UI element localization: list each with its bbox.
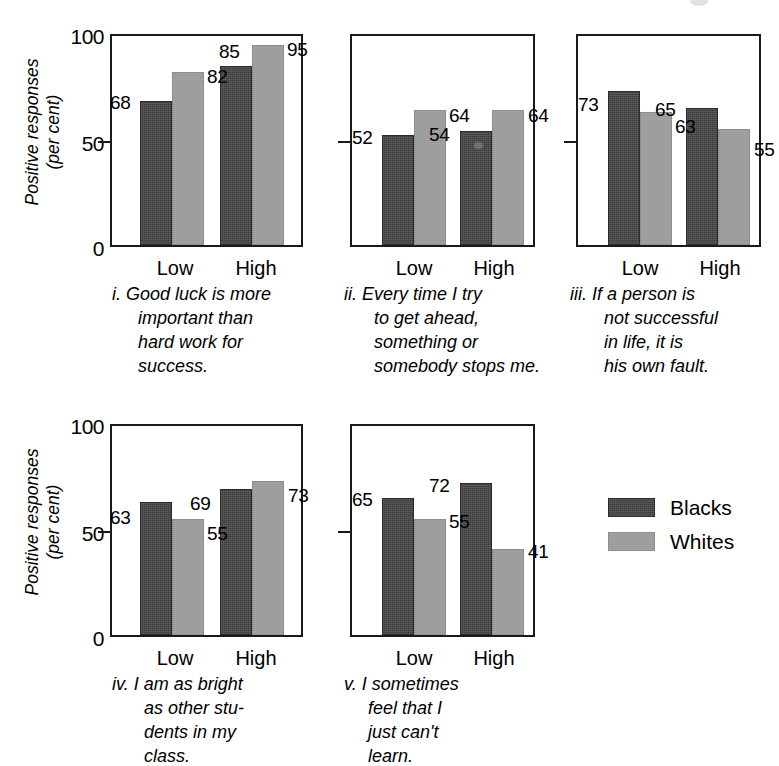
- panel-caption-iii: iii. If a person is not successful in li…: [570, 283, 779, 379]
- legend-swatch-blacks-icon: [608, 498, 655, 517]
- legend-label-blacks: Blacks: [670, 496, 732, 520]
- bar-i-high-blacks: [220, 66, 252, 245]
- bar-iii-low-whites: [640, 112, 672, 245]
- y-axis-title-line2: (per cent): [43, 95, 63, 170]
- bar-i-low-whites: [172, 72, 204, 245]
- y-tick-0-iv: 0: [52, 628, 104, 649]
- bar-value-ii-high-blacks: 54: [429, 125, 449, 144]
- y-axis-title-line1: Positive responses: [22, 59, 42, 206]
- y-tick-50-iv: 50: [52, 523, 104, 544]
- bar-value-iii-low-whites: 63: [675, 117, 695, 136]
- legend-item-whites: Whites: [608, 530, 768, 554]
- bar-value-i-high-blacks: 85: [219, 42, 239, 61]
- bar-value-v-high-whites: 41: [528, 542, 548, 561]
- bar-iv-low-whites: [172, 519, 204, 635]
- bar-value-v-low-whites: 55: [449, 512, 469, 531]
- bar-v-high-blacks: [460, 483, 492, 635]
- legend: Blacks Whites: [608, 496, 768, 558]
- legend-label-whites: Whites: [670, 530, 734, 554]
- bar-value-iv-low-whites: 55: [207, 524, 227, 543]
- bar-value-i-high-whites: 95: [287, 40, 307, 59]
- bar-value-iv-high-whites: 73: [288, 486, 308, 505]
- x-label-v-low: Low: [384, 648, 444, 668]
- bar-v-high-whites: [492, 549, 524, 636]
- bar-v-low-whites: [414, 519, 446, 635]
- bar-value-ii-low-whites: 64: [449, 106, 469, 125]
- bar-ii-low-blacks: [382, 135, 414, 245]
- bar-value-ii-low-blacks: 52: [352, 128, 372, 147]
- y-tick-0-i: 0: [52, 238, 104, 259]
- x-label-v-high: High: [464, 648, 524, 668]
- panel-caption-v: v. I sometimes feel that I just can't le…: [344, 673, 583, 766]
- x-label-i-low: Low: [145, 258, 205, 278]
- panel-caption-i: i. Good luck is more important than hard…: [112, 283, 353, 379]
- legend-swatch-whites-icon: [608, 532, 655, 551]
- bar-iv-high-blacks: [220, 489, 252, 635]
- panel-i: Positive responses (per cent) 100 50 0 6…: [0, 0, 330, 390]
- bar-v-low-blacks: [382, 498, 414, 635]
- bar-i-high-whites: [252, 45, 284, 246]
- y-axis-title-line2-iv: (per cent): [43, 485, 63, 560]
- panel-caption-ii: ii. Every time I try to get ahead, somet…: [344, 283, 589, 379]
- bar-value-iv-low-blacks: 63: [110, 508, 130, 527]
- bar-iv-high-whites: [252, 481, 284, 635]
- scan-artifact-panel-ii: [474, 142, 483, 149]
- bar-value-v-low-blacks: 65: [352, 490, 372, 509]
- panel-v: 65 55 72 41 Low High v. I sometimes feel…: [330, 390, 570, 750]
- bar-value-iii-high-blacks: 65: [655, 100, 675, 119]
- panel-caption-iv: iv. I am as bright as other stu- dents i…: [112, 673, 359, 766]
- x-label-iii-high: High: [690, 258, 750, 278]
- panel-ii: 52 64 54 64 Low High ii. Every time I tr…: [330, 0, 570, 390]
- bar-i-low-blacks: [140, 101, 172, 246]
- bar-iii-high-whites: [718, 129, 750, 245]
- y-axis-title-line1-iv: Positive responses: [22, 449, 42, 596]
- bar-value-i-low-blacks: 68: [110, 93, 130, 112]
- y-axis-title-i: Positive responses (per cent): [22, 32, 63, 232]
- bar-value-v-high-blacks: 72: [429, 476, 449, 495]
- x-label-iv-low: Low: [145, 648, 205, 668]
- y-tick-50-i: 50: [52, 133, 104, 154]
- bar-value-iii-low-blacks: 73: [578, 95, 598, 114]
- x-label-iii-low: Low: [610, 258, 670, 278]
- panel-iii: 73 63 65 55 Low High iii. If a person is…: [560, 0, 771, 390]
- bar-value-iv-high-blacks: 69: [190, 494, 210, 513]
- y-tick-100-iv: 100: [52, 416, 104, 437]
- x-label-i-high: High: [226, 258, 286, 278]
- x-label-iv-high: High: [226, 648, 286, 668]
- x-label-ii-low: Low: [384, 258, 444, 278]
- y-tick-100-i: 100: [52, 26, 104, 47]
- bar-ii-high-whites: [492, 110, 524, 245]
- y-axis-title-iv: Positive responses (per cent): [22, 422, 63, 622]
- bar-value-iii-high-whites: 55: [754, 140, 774, 159]
- bar-value-ii-high-whites: 64: [528, 106, 548, 125]
- bar-iii-low-blacks: [608, 91, 640, 245]
- x-label-ii-high: High: [464, 258, 524, 278]
- panel-iv: Positive responses (per cent) 100 50 0 6…: [0, 390, 330, 750]
- bar-value-i-low-whites: 82: [207, 67, 227, 86]
- bar-iv-low-blacks: [140, 502, 172, 635]
- legend-item-blacks: Blacks: [608, 496, 768, 520]
